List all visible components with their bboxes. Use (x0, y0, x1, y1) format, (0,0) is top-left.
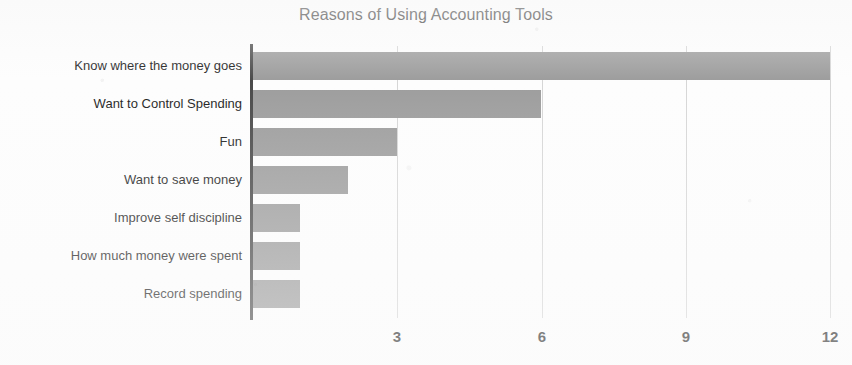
bar-want-to-save-money[interactable] (252, 166, 348, 194)
x-axis-tick-9: 9 (666, 328, 706, 345)
x-axis-tick-6: 6 (522, 328, 562, 345)
bar-want-to-control-spending[interactable] (252, 90, 541, 118)
y-axis-label-3: Want to save money (2, 173, 242, 187)
gridline-12 (830, 46, 831, 318)
gridline-9 (686, 46, 687, 318)
chart-screenshot: Reasons of Using Accounting Tools Know w… (0, 0, 852, 365)
y-axis-label-1: Want to Control Spending (2, 97, 242, 111)
bar-know-where-the-money-goes[interactable] (252, 52, 830, 80)
y-axis-label-4: Improve self discipline (2, 211, 242, 225)
y-axis-label-6: Record spending (2, 287, 242, 301)
y-axis-label-2: Fun (2, 135, 242, 149)
bar-how-much-money-were-spent[interactable] (252, 242, 300, 270)
y-axis-label-5: How much money were spent (2, 249, 242, 263)
bar-improve-self-discipline[interactable] (252, 204, 300, 232)
x-axis-tick-12: 12 (810, 328, 850, 345)
chart-title: Reasons of Using Accounting Tools (0, 6, 852, 24)
plot-area (252, 46, 830, 318)
bar-fun[interactable] (252, 128, 397, 156)
gridline-3 (397, 46, 398, 318)
y-axis-label-0: Know where the money goes (2, 59, 242, 73)
x-axis-tick-3: 3 (377, 328, 417, 345)
gridline-6 (542, 46, 543, 318)
bar-record-spending[interactable] (252, 280, 300, 308)
y-axis-line (250, 44, 253, 320)
